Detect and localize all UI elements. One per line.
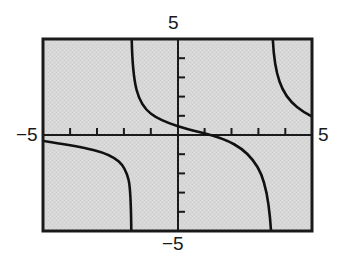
plot-canvas xyxy=(0,0,347,257)
x-axis-min-label: −5 xyxy=(16,125,38,144)
plot-figure: 5 −5 −5 5 xyxy=(0,0,347,257)
y-axis-max-label: 5 xyxy=(168,13,179,32)
y-axis-min-label: −5 xyxy=(162,234,184,253)
x-axis-max-label: 5 xyxy=(318,125,329,144)
